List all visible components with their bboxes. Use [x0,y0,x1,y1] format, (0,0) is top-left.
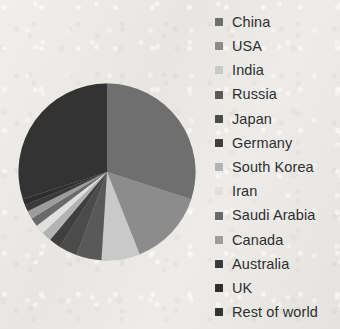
legend-item[interactable]: India [215,58,340,82]
legend-item-label: China [232,15,270,30]
legend-swatch-icon [215,18,223,26]
legend-item[interactable]: Japan [215,107,340,131]
legend-swatch-icon [215,91,223,99]
legend-item-label: Rest of world [232,305,318,320]
legend-item-label: UK [232,281,252,296]
legend-swatch-icon [215,308,223,316]
legend-swatch-icon [215,187,223,195]
legend-swatch-icon [215,260,223,268]
legend-item[interactable]: Australia [215,252,340,276]
legend-item[interactable]: Germany [215,131,340,155]
legend-swatch-icon [215,284,223,292]
legend-swatch-icon [215,66,223,74]
legend-item[interactable]: USA [215,34,340,58]
legend-swatch-icon [215,236,223,244]
legend-item-label: Russia [232,87,277,102]
legend-swatch-icon [215,212,223,220]
legend-item[interactable]: Russia [215,83,340,107]
legend-item[interactable]: Rest of world [215,300,340,324]
legend-item[interactable]: Canada [215,228,340,252]
legend-item[interactable]: China [215,10,340,34]
legend-item[interactable]: Iran [215,179,340,203]
legend-swatch-icon [215,139,223,147]
legend-item-label: Australia [232,257,289,272]
pie-chart-svg [18,83,196,261]
legend-swatch-icon [215,42,223,50]
legend-item-label: Iran [232,184,257,199]
legend-item-label: USA [232,39,262,54]
chart-page: ChinaUSAIndiaRussiaJapanGermanySouth Kor… [0,0,340,329]
legend-swatch-icon [215,115,223,123]
legend-item-label: South Korea [232,160,314,175]
chart-legend: ChinaUSAIndiaRussiaJapanGermanySouth Kor… [215,10,340,324]
legend-item-label: Germany [232,136,292,151]
legend-item-label: Japan [232,112,272,127]
pie-slice-group [18,83,195,260]
legend-item-label: Canada [232,233,283,248]
legend-item[interactable]: South Korea [215,155,340,179]
legend-swatch-icon [215,163,223,171]
legend-item-label: Saudi Arabia [232,208,315,223]
legend-item-label: India [232,63,264,78]
legend-item[interactable]: Saudi Arabia [215,204,340,228]
legend-item[interactable]: UK [215,276,340,300]
pie-chart [18,83,196,261]
